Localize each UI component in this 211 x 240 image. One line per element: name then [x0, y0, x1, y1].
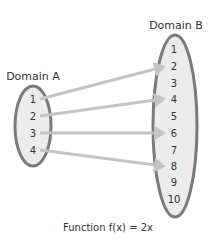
domain-a-value: 2 — [30, 111, 36, 122]
domain-b-value: 7 — [171, 145, 177, 156]
mapping-arrow-2-to-4 — [40, 99, 163, 116]
domain-b-value: 10 — [168, 194, 181, 205]
domain-b-value: 4 — [171, 94, 177, 105]
domain-a-value: 3 — [30, 128, 36, 139]
domain-a-value: 1 — [30, 94, 36, 105]
domain-b-value: 6 — [171, 128, 177, 139]
caption: Function f(x) = 2x — [63, 222, 153, 233]
mapping-arrow-4-to-8 — [40, 150, 163, 166]
domain-b-value: 2 — [171, 61, 177, 72]
domain-b-value: 5 — [171, 111, 177, 122]
domain-b-value: 9 — [171, 177, 177, 188]
domain-b-value: 1 — [171, 44, 177, 55]
domain-b-value: 8 — [171, 161, 177, 172]
domain-a-value: 4 — [30, 145, 36, 156]
function-mapping-diagram: Domain A 1 2 3 4 Domain B 1 2 3 4 5 6 7 … — [0, 0, 211, 240]
domain-b-value: 3 — [171, 78, 177, 89]
domain-b-label: Domain B — [149, 19, 203, 32]
domain-a-label: Domain A — [6, 70, 60, 83]
